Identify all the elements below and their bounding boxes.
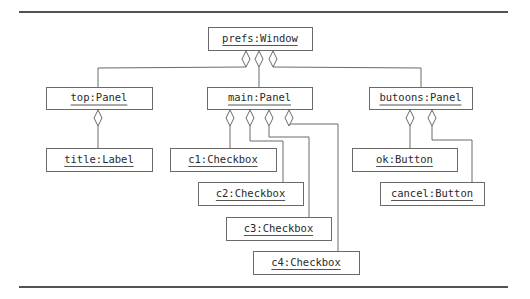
object-label: cancel:Button: [391, 187, 473, 199]
object-box-ok[interactable]: ok:Button: [353, 149, 458, 172]
aggregation-line-prefs-top: [98, 67, 246, 87]
object-box-c3[interactable]: c3:Checkbox: [227, 218, 332, 241]
aggregation-diamond-top-title: [94, 110, 102, 126]
object-label: title:Label: [64, 153, 134, 165]
object-label: prefs:Window: [222, 32, 299, 44]
uml-object-diagram: prefs:Windowtop:Panelmain:Panelbutoons:P…: [0, 0, 530, 299]
aggregation-diamond-main-c1: [226, 110, 234, 126]
object-label: top:Panel: [71, 91, 128, 103]
aggregation-diamond-butoons-cancel: [428, 110, 436, 126]
object-box-butoons[interactable]: butoons:Panel: [370, 88, 473, 110]
aggregation-line-prefs-butoons: [273, 67, 421, 87]
aggregation-diamond-butoons-ok: [406, 110, 414, 126]
object-label: c2:Checkbox: [216, 187, 286, 199]
object-boxes: prefs:Windowtop:Panelmain:Panelbutoons:P…: [47, 28, 485, 275]
object-box-prefs[interactable]: prefs:Window: [209, 28, 313, 51]
object-label: c3:Checkbox: [244, 222, 314, 234]
aggregation-diamond-prefs-butoons: [269, 51, 277, 67]
object-box-top[interactable]: top:Panel: [47, 88, 153, 110]
object-label: c1:Checkbox: [188, 153, 258, 165]
object-label: c4:Checkbox: [271, 256, 341, 268]
aggregation-diamond-main-c2: [246, 110, 254, 126]
object-box-c1[interactable]: c1:Checkbox: [171, 149, 277, 172]
object-box-main[interactable]: main:Panel: [208, 88, 313, 110]
object-box-c2[interactable]: c2:Checkbox: [199, 183, 304, 206]
object-label: ok:Button: [376, 153, 433, 165]
aggregation-diamond-main-c3: [265, 110, 273, 126]
object-label: main:Panel: [228, 91, 291, 103]
object-label: butoons:Panel: [379, 91, 461, 103]
object-box-c4[interactable]: c4:Checkbox: [254, 252, 360, 275]
aggregation-diamond-prefs-main: [255, 51, 263, 67]
object-box-title[interactable]: title:Label: [47, 149, 153, 172]
object-box-cancel[interactable]: cancel:Button: [381, 183, 485, 206]
aggregation-diamond-prefs-top: [242, 51, 250, 67]
